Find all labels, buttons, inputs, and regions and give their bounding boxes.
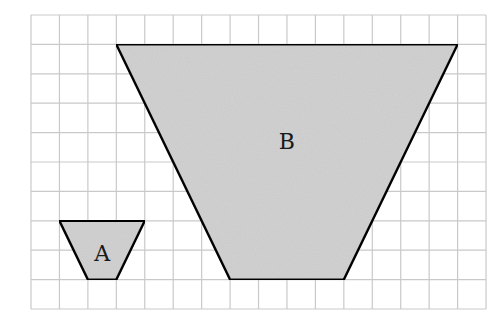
label-b: B <box>279 129 295 154</box>
label-a: A <box>93 241 111 266</box>
grid-diagram: AB <box>0 0 496 316</box>
